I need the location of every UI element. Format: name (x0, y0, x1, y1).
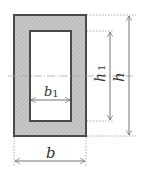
cross-section-diagram: b b1 h1 h (0, 0, 145, 182)
h1-label: h1 (92, 65, 108, 82)
hollow-section (14, 15, 86, 136)
h-label: h (110, 72, 128, 82)
b-label: b (46, 144, 56, 162)
